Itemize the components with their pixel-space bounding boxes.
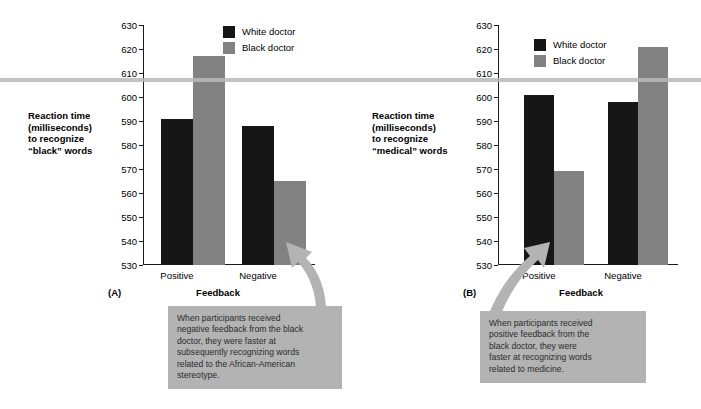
y-tick-530-a bbox=[139, 265, 143, 266]
callout-b-line-0: When participants received bbox=[489, 318, 637, 329]
y-tick-540-b bbox=[494, 241, 498, 242]
panel-tag-a: (A) bbox=[108, 287, 121, 298]
callout-a-line-5: stereotype. bbox=[177, 370, 333, 381]
y-tick-560-b bbox=[494, 193, 498, 194]
x-axis-title-a: Feedback bbox=[196, 287, 240, 298]
figure-root: Reaction time (milliseconds) to recogniz… bbox=[0, 0, 701, 409]
y-tick-530-b bbox=[494, 265, 498, 266]
y-tick-590-a bbox=[139, 121, 143, 122]
panel-a: Reaction time (milliseconds) to recogniz… bbox=[0, 0, 360, 409]
y-tick-label-540-a: 540 bbox=[121, 236, 137, 247]
bar-a-negative-black-doctor bbox=[274, 181, 306, 265]
bar-b-positive-black-doctor bbox=[554, 171, 584, 265]
legend-swatch-black-doctor-b bbox=[534, 55, 546, 67]
y-tick-label-530-b: 530 bbox=[476, 260, 492, 271]
y-tick-540-a bbox=[139, 241, 143, 242]
y-axis-label-b-line-3: “medical” words bbox=[372, 145, 476, 157]
callout-a-line-2: doctor, they were faster at bbox=[177, 336, 333, 347]
y-tick-560-a bbox=[139, 193, 143, 194]
legend-label-white-doctor-b: White doctor bbox=[553, 39, 606, 50]
y-tick-550-b bbox=[494, 217, 498, 218]
legend-label-white-doctor-a: White doctor bbox=[242, 26, 295, 37]
legend-b: White doctor Black doctor bbox=[534, 38, 606, 70]
legend-swatch-white-doctor-b bbox=[534, 39, 546, 51]
legend-a: White doctor Black doctor bbox=[223, 25, 295, 57]
y-tick-570-b bbox=[494, 169, 498, 170]
callout-a-line-0: When participants received bbox=[177, 313, 333, 324]
legend-entry-black-doctor-a: Black doctor bbox=[223, 41, 295, 54]
x-axis-title-b: Feedback bbox=[559, 287, 603, 298]
y-tick-label-630-b: 630 bbox=[476, 20, 492, 31]
y-tick-600-a bbox=[139, 97, 143, 98]
callout-b: When participants received positive feed… bbox=[480, 311, 646, 383]
y-tick-label-560-a: 560 bbox=[121, 188, 137, 199]
y-axis-label-b-line-1: (milliseconds) bbox=[372, 122, 476, 134]
y-tick-label-600-b: 600 bbox=[476, 92, 492, 103]
y-tick-600-b bbox=[494, 97, 498, 98]
plot-area-a: 630 620 610 600 590 580 570 560 550 540 … bbox=[143, 25, 313, 265]
y-axis-label-b-line-0: Reaction time bbox=[372, 110, 476, 122]
y-axis-label-a: Reaction time (milliseconds) to recogniz… bbox=[28, 110, 124, 156]
legend-label-black-doctor-b: Black doctor bbox=[553, 55, 605, 66]
y-tick-label-620-b: 620 bbox=[476, 44, 492, 55]
x-category-label-negative-a: Negative bbox=[239, 270, 277, 281]
x-category-label-negative-b: Negative bbox=[604, 270, 642, 281]
bar-a-positive-white-doctor bbox=[161, 119, 193, 265]
legend-swatch-black-doctor-a bbox=[223, 42, 235, 54]
bar-b-negative-white-doctor bbox=[608, 102, 638, 265]
y-tick-620-b bbox=[494, 49, 498, 50]
y-axis-line-a bbox=[143, 25, 144, 265]
reference-line bbox=[0, 78, 701, 82]
bar-b-positive-white-doctor bbox=[524, 95, 554, 265]
y-tick-570-a bbox=[139, 169, 143, 170]
y-tick-label-580-b: 580 bbox=[476, 140, 492, 151]
callout-a-line-4: related to the African-American bbox=[177, 359, 333, 370]
y-tick-label-570-a: 570 bbox=[121, 164, 137, 175]
y-axis-label-b-line-2: to recognize bbox=[372, 133, 476, 145]
y-axis-label-a-line-0: Reaction time bbox=[28, 110, 124, 122]
y-tick-label-610-b: 610 bbox=[476, 68, 492, 79]
y-tick-610-a bbox=[139, 73, 143, 74]
y-tick-label-620-a: 620 bbox=[121, 44, 137, 55]
y-axis-label-a-line-1: (milliseconds) bbox=[28, 122, 124, 134]
legend-entry-white-doctor-b: White doctor bbox=[534, 38, 606, 51]
legend-entry-white-doctor-a: White doctor bbox=[223, 25, 295, 38]
x-category-label-positive-b: Positive bbox=[522, 270, 555, 281]
y-tick-label-590-a: 590 bbox=[121, 116, 137, 127]
y-axis-label-a-line-3: “black” words bbox=[28, 145, 124, 157]
y-tick-label-550-a: 550 bbox=[121, 212, 137, 223]
bar-a-positive-black-doctor bbox=[193, 56, 225, 265]
legend-swatch-white-doctor-a bbox=[223, 26, 235, 38]
callout-a: When participants received negative feed… bbox=[168, 306, 342, 389]
legend-label-black-doctor-a: Black doctor bbox=[242, 42, 294, 53]
plot-area-b: 630 620 610 600 590 580 570 560 550 540 … bbox=[498, 25, 668, 265]
y-axis-label-a-line-2: to recognize bbox=[28, 133, 124, 145]
y-tick-630-a bbox=[139, 25, 143, 26]
y-tick-label-590-b: 590 bbox=[476, 116, 492, 127]
y-tick-580-b bbox=[494, 145, 498, 146]
y-tick-label-570-b: 570 bbox=[476, 164, 492, 175]
panel-b: Reaction time (milliseconds) to recogniz… bbox=[360, 0, 701, 409]
callout-b-line-2: black doctor, they were bbox=[489, 341, 637, 352]
x-category-label-positive-a: Positive bbox=[160, 270, 193, 281]
callout-b-line-4: related to medicine. bbox=[489, 364, 637, 375]
callout-b-line-3: faster at recognizing words bbox=[489, 352, 637, 363]
legend-entry-black-doctor-b: Black doctor bbox=[534, 54, 606, 67]
y-tick-label-600-a: 600 bbox=[121, 92, 137, 103]
y-tick-610-b bbox=[494, 73, 498, 74]
y-axis-label-b: Reaction time (milliseconds) to recogniz… bbox=[372, 110, 476, 156]
y-tick-550-a bbox=[139, 217, 143, 218]
callout-a-line-1: negative feedback from the black bbox=[177, 324, 333, 335]
y-tick-label-630-a: 630 bbox=[121, 20, 137, 31]
y-axis-line-b bbox=[498, 25, 499, 265]
callout-a-line-3: subsequently recognizing words bbox=[177, 347, 333, 358]
y-tick-label-530-a: 530 bbox=[121, 260, 137, 271]
y-tick-620-a bbox=[139, 49, 143, 50]
y-tick-590-b bbox=[494, 121, 498, 122]
callout-b-line-1: positive feedback from the bbox=[489, 329, 637, 340]
y-tick-label-580-a: 580 bbox=[121, 140, 137, 151]
y-tick-label-540-b: 540 bbox=[476, 236, 492, 247]
y-tick-label-610-a: 610 bbox=[121, 68, 137, 79]
y-tick-580-a bbox=[139, 145, 143, 146]
y-tick-label-550-b: 550 bbox=[476, 212, 492, 223]
